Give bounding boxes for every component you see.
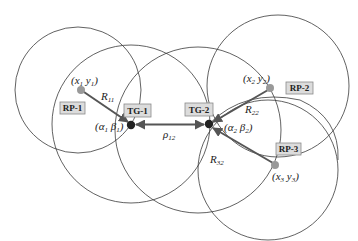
target-tg2-dot — [205, 120, 213, 128]
label-rp1: RP-1 — [60, 102, 85, 114]
range-circles — [15, 15, 349, 240]
localization-diagram: RP-1 TG-1 TG-2 RP-2 RP-3 (x1 y1) (x2 y2)… — [0, 0, 358, 241]
coord-rp3: (x3 y3) — [272, 170, 299, 184]
vector-r22 — [213, 90, 268, 122]
label-tg1-text: TG-1 — [127, 106, 148, 116]
distance-label-r11: R11 — [100, 90, 114, 104]
reference-point-rp3-dot — [271, 161, 279, 169]
target-tg1-dot — [127, 121, 135, 129]
range-circle-4 — [207, 15, 349, 157]
distance-label-rho12: ρ12 — [162, 128, 176, 142]
label-rp3-text: RP-3 — [279, 144, 299, 154]
distance-label-r22: R22 — [244, 103, 259, 117]
coord-tg1: (α1 β1) — [95, 120, 124, 134]
label-rp2: RP-2 — [286, 82, 313, 94]
label-rp1-text: RP-1 — [63, 103, 83, 113]
label-rp2-text: RP-2 — [290, 83, 310, 93]
label-tg2: TG-2 — [185, 103, 213, 116]
coord-tg2: (α2 β2) — [224, 121, 253, 135]
label-rp3: RP-3 — [276, 143, 301, 155]
label-tg1: TG-1 — [124, 104, 151, 117]
vector-r32 — [213, 128, 273, 163]
range-circle-5 — [198, 100, 338, 240]
reference-point-rp2-dot — [266, 84, 274, 92]
coord-rp1: (x1 y1) — [71, 74, 98, 88]
label-tg2-text: TG-2 — [189, 105, 210, 115]
distance-label-r32: R32 — [209, 153, 224, 167]
coord-rp2: (x2 y2) — [243, 72, 270, 86]
